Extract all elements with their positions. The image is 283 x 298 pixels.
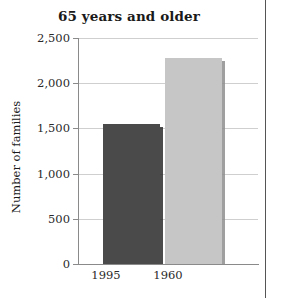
y-tick-1500 [73,128,78,129]
gridline-2500 [78,38,258,39]
bar-1995-edge [160,127,163,264]
x-axis-line [78,264,259,265]
y-tick-0 [73,264,78,265]
bar-1960-edge [222,61,225,264]
y-tick-label-1000: 1,000 [8,167,70,181]
bar-1960-body [165,58,222,264]
y-tick-label-500: 500 [8,212,70,226]
y-tick-500 [73,219,78,220]
x-tick-label-1960: 1960 [138,268,198,282]
y-tick-label-group: 2,500 2,000 1,500 1,000 500 0 [6,0,70,298]
y-tick-label-0: 0 [8,257,70,271]
bar-chart-figure: 65 years and older Number of families 2,… [0,0,283,298]
y-tick-1000 [73,174,78,175]
plot-area [78,38,258,264]
y-tick-label-2000: 2,000 [8,76,70,90]
y-axis-line [78,38,79,265]
bar-1995-body [103,124,160,264]
y-tick-2500 [73,38,78,39]
y-tick-2000 [73,83,78,84]
x-tick-label-1995: 1995 [76,268,136,282]
y-tick-label-1500: 1,500 [8,121,70,135]
bar-1995[interactable] [103,124,160,264]
y-tick-label-2500: 2,500 [8,31,70,45]
bar-1960[interactable] [165,58,222,264]
